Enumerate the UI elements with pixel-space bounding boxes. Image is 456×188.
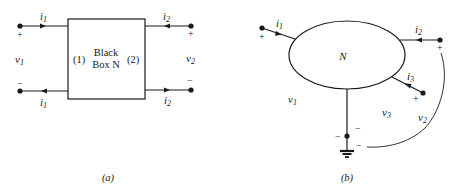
label-i2-bottom: i2 — [164, 94, 171, 108]
label-i3: i3 — [407, 70, 414, 84]
caption-a: (a) — [102, 172, 115, 184]
box-label-line1: Black — [94, 47, 119, 58]
minus-right: − — [187, 75, 193, 86]
box-label-line2: Box N — [92, 59, 120, 70]
label-i2-top: i2 — [163, 10, 170, 24]
terminal-1 — [259, 25, 264, 30]
arrow-in-icon — [416, 38, 422, 43]
label-i1-bottom: i1 — [40, 96, 47, 110]
label-v1: v1 — [288, 93, 297, 107]
figure-b: N i1 + i2 + i3 + − − − — [259, 17, 444, 184]
figure-a: i1 i1 i2 i2 + − + − v1 v2 (1) Black Box … — [15, 10, 195, 184]
network-ellipse — [289, 21, 405, 89]
plus-terminal-1: + — [259, 31, 265, 42]
label-i1-top: i1 — [40, 10, 47, 24]
terminal-top-left — [17, 23, 22, 28]
arrow-left-icon — [41, 89, 47, 94]
plus-terminal-2: + — [437, 42, 443, 53]
plus-terminal-3: + — [413, 93, 419, 104]
terminal-bottom-left — [17, 88, 22, 93]
terminal-3 — [420, 90, 425, 95]
label-v2: v2 — [418, 111, 427, 125]
terminal-ground — [344, 133, 349, 138]
minus-v2: − — [356, 140, 362, 151]
network-label: N — [338, 50, 347, 62]
minus-v3: − — [355, 123, 361, 134]
ground-icon — [340, 151, 354, 157]
two-port-diagrams: i1 i1 i2 i2 + − + − v1 v2 (1) Black Box … — [0, 0, 456, 188]
label-i1: i1 — [276, 17, 283, 31]
plus-right: + — [188, 28, 194, 39]
v2-arc — [367, 53, 444, 147]
port-1-label: (1) — [73, 54, 86, 66]
arrow-in-icon — [275, 31, 282, 36]
arrow-right-icon — [40, 24, 46, 29]
plus-left: + — [17, 29, 23, 40]
arrow-left-icon — [164, 24, 170, 29]
label-v3: v3 — [382, 106, 391, 120]
minus-v1: − — [335, 131, 341, 142]
label-v1: v1 — [15, 53, 24, 67]
label-v2: v2 — [186, 52, 195, 66]
minus-left: − — [17, 78, 23, 89]
caption-b: (b) — [341, 172, 354, 184]
terminal-bottom-right — [188, 87, 193, 92]
port-2-label: (2) — [127, 54, 140, 66]
label-i2: i2 — [415, 23, 422, 37]
arrow-right-icon — [164, 88, 170, 93]
